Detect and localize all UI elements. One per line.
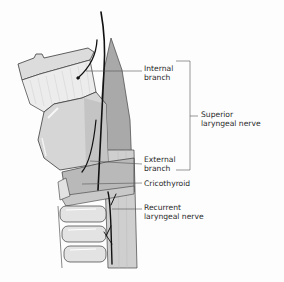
- label-external-branch: External branch: [144, 155, 176, 173]
- label-cricothyroid: Cricothyroid: [144, 179, 190, 188]
- tracheal-rings: [60, 206, 106, 262]
- label-recurrent-laryngeal-nerve: Recurrent laryngeal nerve: [144, 203, 204, 221]
- anatomy-illustration: [0, 0, 284, 282]
- label-superior-laryngeal-nerve: Superior laryngeal nerve: [201, 110, 261, 128]
- laryngeal-nerve-diagram: Internal branch Superior laryngeal nerve…: [0, 0, 284, 282]
- label-internal-branch: Internal branch: [144, 64, 173, 82]
